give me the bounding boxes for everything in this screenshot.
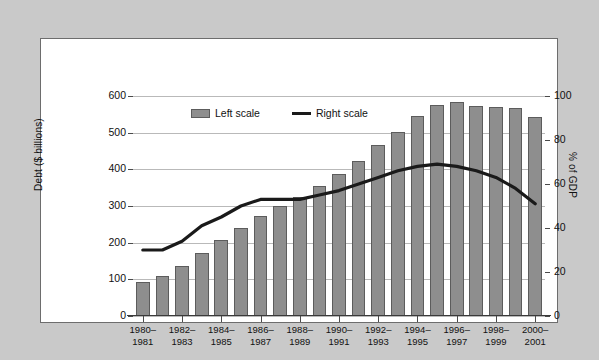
chart-panel: Debt ($ billions) 0100200300400500600 02… (40, 38, 558, 323)
x-axis-tickmark (496, 316, 497, 322)
y-axis-right-tickmark (545, 228, 550, 229)
x-axis-tickmark (300, 316, 301, 322)
x-axis-tick-label: 1984–1985 (208, 324, 234, 347)
y-axis-right-tickmark (545, 140, 550, 141)
legend-label-right-scale: Right scale (316, 107, 368, 119)
x-axis-tickmark (182, 316, 183, 322)
y-axis-right-tickmark (545, 96, 550, 97)
y-axis-left-tick-label: 600 (108, 89, 133, 101)
y-axis-right-tick-label: 40 (545, 221, 566, 233)
y-axis-left-tick-label: 200 (108, 236, 133, 248)
x-axis-tick-label: 1992–1993 (365, 324, 391, 347)
y-axis-right-tick-label: 100 (545, 89, 572, 101)
x-axis-tick-label: 1998–1999 (483, 324, 509, 347)
x-axis-tickmark (378, 316, 379, 322)
x-axis-tickmark (535, 316, 536, 322)
y-axis-right-tickmark (545, 184, 550, 185)
x-axis-tickmark (221, 316, 222, 322)
legend-item-right-scale: Right scale (292, 107, 368, 119)
x-axis-tick-label: 1982–1983 (169, 324, 195, 347)
y-axis-right-tick-label: 80 (545, 133, 566, 145)
x-axis-tick-label: 1988–1989 (287, 324, 313, 347)
y-axis-right-title: % of GDP (567, 152, 578, 198)
y-axis-left-title: Debt ($ billions) (33, 118, 44, 191)
y-axis-left-tick-label: 100 (108, 272, 133, 284)
x-axis-tickmark (261, 316, 262, 322)
x-axis-tick-label: 1996–1997 (443, 324, 469, 347)
y-axis-left-tick-label: 500 (108, 126, 133, 138)
x-axis-tick-label: 1980–1981 (130, 324, 156, 347)
x-axis-tick-label: 1990–1991 (326, 324, 352, 347)
x-axis-tick-label: 1994–1995 (404, 324, 430, 347)
x-axis-tickmark (339, 316, 340, 322)
chart-figure: Debt ($ billions) 0100200300400500600 02… (0, 0, 599, 360)
x-axis: 1980–19811982–19831984–19851986–19871988… (133, 316, 545, 356)
y-axis-left-tick-label: 300 (108, 199, 133, 211)
x-axis-tick-label: 1986–1987 (247, 324, 273, 347)
line-series (133, 96, 545, 316)
y-axis-right-tickmark (545, 316, 550, 317)
x-axis-tickmark (457, 316, 458, 322)
x-axis-tick-label: 2000–2001 (522, 324, 548, 347)
x-axis-tickmark (417, 316, 418, 322)
legend-item-left-scale: Left scale (191, 107, 260, 119)
y-axis-right-tick-label: 20 (545, 265, 566, 277)
y-axis-right-tick-label: 60 (545, 177, 566, 189)
x-axis-tickmark (143, 316, 144, 322)
right-scale-line (143, 164, 535, 250)
legend-bar-swatch-icon (191, 109, 210, 118)
chart-legend: Left scale Right scale (191, 107, 368, 119)
y-axis-left-tick-label: 400 (108, 162, 133, 174)
y-axis-right-tickmark (545, 272, 550, 273)
plot-area: 0100200300400500600 020406080100 (133, 96, 545, 316)
legend-line-swatch-icon (292, 112, 311, 115)
legend-label-left-scale: Left scale (215, 107, 260, 119)
